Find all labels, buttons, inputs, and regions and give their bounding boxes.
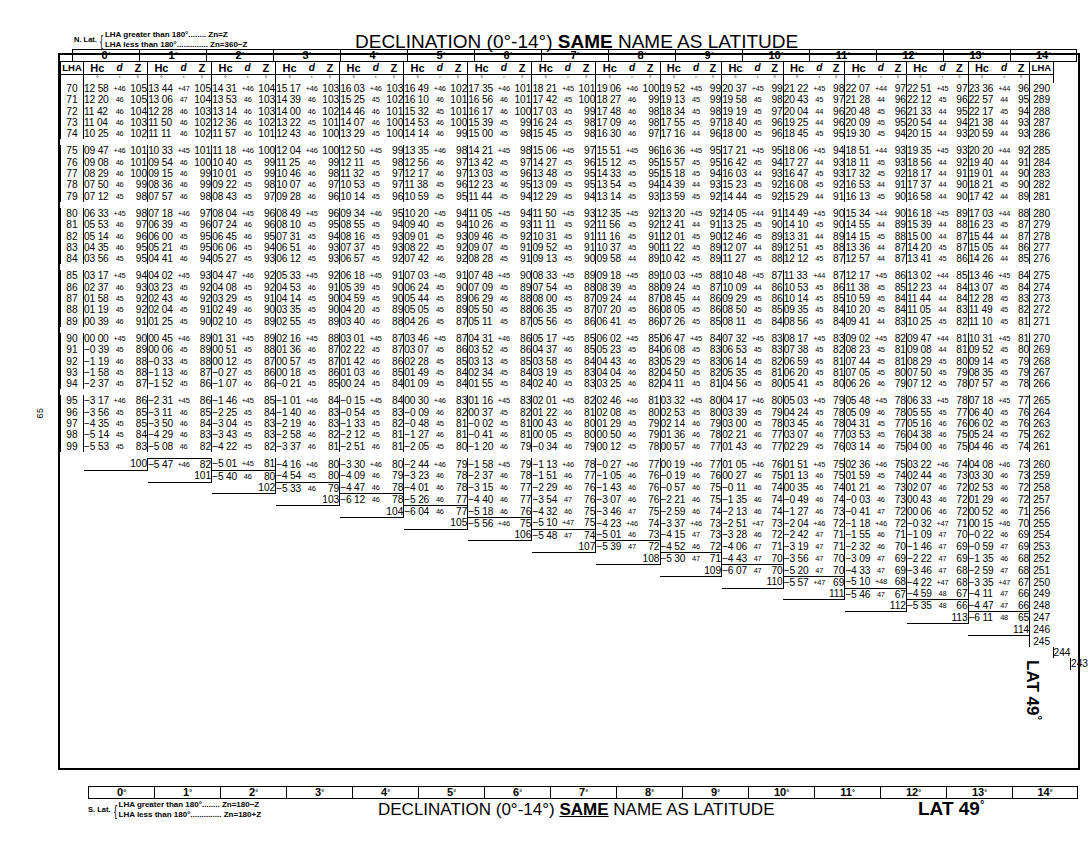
cell-z-4-lha80[interactable]: 95 [385, 208, 404, 219]
cell-hc-6-lha81[interactable]: 10 26 [468, 219, 495, 230]
cell-hc-7-lha77[interactable]: 13 48 [532, 168, 559, 179]
cell-d-11-lha109[interactable]: 47 [810, 565, 828, 577]
cell-d-11-lha76[interactable]: 44 [810, 157, 828, 168]
cell-hc-9-lha97[interactable]: 02 14 [660, 418, 687, 429]
lha-right-280[interactable]: 280 [1030, 208, 1053, 219]
cell-z-3-lha85[interactable]: 92 [321, 270, 340, 281]
cell-z-1-lha85[interactable]: 93 [192, 270, 211, 281]
cell-hc-8-lha100[interactable]: −0 27 [596, 458, 623, 470]
cell-hc-0-lha74[interactable]: 10 25 [84, 128, 111, 139]
cell-hc-1-lha93[interactable]: −1 13 [148, 367, 175, 378]
cell-d-2-lha78[interactable]: 45 [239, 179, 257, 190]
cell-d-7-lha85[interactable]: +45 [559, 270, 577, 281]
cell-z-3-lha79[interactable]: 96 [321, 191, 340, 202]
cell-d-13-lha91[interactable]: 44 [934, 344, 952, 355]
cell-z-7-lha101[interactable]: 77 [577, 470, 596, 482]
cell-z-11-lha70[interactable]: 98 [828, 83, 845, 94]
lha-right-245[interactable]: 245 [1030, 635, 1053, 647]
lha-right-275[interactable]: 275 [1030, 270, 1053, 281]
cell-d-10-lha105[interactable]: +47 [749, 517, 767, 529]
cell-z-0-lha82[interactable]: 96 [128, 231, 147, 242]
cell-d-14-lha85[interactable]: +45 [995, 270, 1013, 281]
cell-hc-3-lha102[interactable]: −5 33 [276, 482, 303, 494]
cell-d-11-lha72[interactable]: 44 [810, 106, 828, 117]
cell-z-13-lha96[interactable]: 77 [951, 407, 968, 418]
cell-hc-11-lha80[interactable]: 14 49 [783, 208, 810, 219]
cell-hc-8-lha79[interactable]: 13 14 [596, 191, 623, 202]
cell-hc-1-lha72[interactable]: 12 28 [148, 106, 175, 117]
cell-hc-7-lha71[interactable]: 17 42 [532, 94, 559, 105]
cell-z-6-lha90[interactable]: 86 [513, 333, 532, 344]
cell-d-2-lha100[interactable]: +45 [239, 458, 257, 470]
cell-hc-3-lha86[interactable]: 04 53 [276, 282, 303, 293]
cell-hc-13-lha111[interactable]: −4 59 [907, 588, 934, 600]
cell-hc-4-lha95[interactable]: −0 15 [340, 395, 367, 406]
cell-d-10-lha97[interactable]: 45 [749, 418, 767, 429]
cell-d-8-lha95[interactable]: +46 [623, 395, 641, 406]
cell-hc-13-lha93[interactable]: 07 50 [907, 367, 934, 378]
cell-d-7-lha93[interactable]: 45 [559, 367, 577, 378]
cell-d-3-lha95[interactable]: +46 [303, 395, 321, 406]
cell-z-0-lha81[interactable]: 97 [128, 219, 147, 230]
cell-d-14-lha112[interactable]: 47 [995, 600, 1013, 612]
cell-hc-3-lha100[interactable]: −4 16 [276, 458, 303, 470]
cell-d-0-lha77[interactable]: 46 [111, 168, 129, 179]
cell-hc-1-lha96[interactable]: −3 11 [148, 407, 175, 418]
cell-d-2-lha99[interactable]: 45 [239, 441, 257, 452]
cell-z-10-lha77[interactable]: 93 [766, 168, 783, 179]
cell-z-9-lha80[interactable]: 92 [705, 208, 722, 219]
cell-d-9-lha72[interactable]: 45 [687, 106, 705, 117]
cell-d-6-lha89[interactable]: 45 [495, 316, 513, 327]
cell-z-6-lha94[interactable]: 84 [513, 378, 532, 389]
cell-hc-0-lha82[interactable]: 05 14 [84, 231, 111, 242]
cell-hc-13-lha76[interactable]: 18 56 [907, 157, 934, 168]
cell-d-0-lha97[interactable]: 45 [111, 418, 129, 429]
cell-hc-10-lha76[interactable]: 16 42 [722, 157, 749, 168]
cell-z-9-lha104[interactable]: 74 [705, 506, 722, 518]
cell-hc-6-lha91[interactable]: 03 52 [468, 344, 495, 355]
cell-z-6-lha95[interactable]: 83 [513, 395, 532, 406]
cell-z-4-lha96[interactable]: 83 [385, 407, 404, 418]
cell-hc-0-lha85[interactable]: 03 17 [84, 270, 111, 281]
cell-hc-8-lha74[interactable]: 16 30 [596, 128, 623, 139]
cell-d-5-lha98[interactable]: 46 [431, 429, 449, 440]
cell-hc-9-lha103[interactable]: −2 21 [660, 494, 687, 506]
cell-d-2-lha79[interactable]: 45 [239, 191, 257, 202]
cell-d-10-lha96[interactable]: 45 [749, 407, 767, 418]
cell-d-4-lha86[interactable]: 45 [367, 282, 385, 293]
cell-hc-13-lha88[interactable]: 11 05 [907, 304, 934, 315]
cell-hc-13-lha83[interactable]: 14 20 [907, 242, 934, 253]
cell-d-12-lha95[interactable]: +45 [872, 395, 890, 406]
cell-d-5-lha97[interactable]: 45 [431, 418, 449, 429]
cell-hc-4-lha91[interactable]: 02 22 [340, 344, 367, 355]
table-row[interactable]: 113−6 114865247 [61, 612, 1088, 624]
cell-z-11-lha72[interactable]: 96 [828, 106, 845, 117]
cell-hc-8-lha72[interactable]: 17 48 [596, 106, 623, 117]
cell-hc-14-lha72[interactable]: 22 17 [968, 106, 995, 117]
cell-z-3-lha97[interactable]: 83 [321, 418, 340, 429]
cell-z-11-lha75[interactable]: 94 [828, 145, 845, 156]
cell-hc-11-lha78[interactable]: 16 08 [783, 179, 810, 190]
cell-z-6-lha100[interactable]: 79 [513, 458, 532, 470]
cell-hc-7-lha90[interactable]: 05 17 [532, 333, 559, 344]
cell-z-11-lha81[interactable]: 90 [828, 219, 845, 230]
cell-d-11-lha106[interactable]: 47 [810, 529, 828, 541]
cell-d-4-lha81[interactable]: 45 [367, 219, 385, 230]
cell-hc-0-lha80[interactable]: 06 33 [84, 208, 111, 219]
cell-d-2-lha84[interactable]: 45 [239, 253, 257, 264]
cell-d-9-lha83[interactable]: 45 [687, 242, 705, 253]
cell-d-9-lha81[interactable]: 44 [687, 219, 705, 230]
cell-d-6-lha91[interactable]: 45 [495, 344, 513, 355]
cell-hc-0-lha78[interactable]: 07 50 [84, 179, 111, 190]
cell-d-7-lha101[interactable]: 46 [559, 470, 577, 482]
cell-d-13-lha111[interactable]: 48 [934, 588, 952, 600]
cell-z-13-lha88[interactable]: 83 [951, 304, 968, 315]
table-row[interactable]: 99−5 534583−5 084682−4 224582−3 374681−2… [61, 441, 1088, 452]
cell-z-11-lha97[interactable]: 78 [828, 418, 845, 429]
lha-right-276[interactable]: 276 [1030, 253, 1053, 264]
cell-d-8-lha88[interactable]: 45 [623, 304, 641, 315]
cell-hc-2-lha87[interactable]: 03 29 [212, 293, 239, 304]
cell-d-4-lha88[interactable]: 45 [367, 304, 385, 315]
cell-hc-5-lha89[interactable]: 04 26 [404, 316, 431, 327]
cell-hc-8-lha80[interactable]: 12 35 [596, 208, 623, 219]
